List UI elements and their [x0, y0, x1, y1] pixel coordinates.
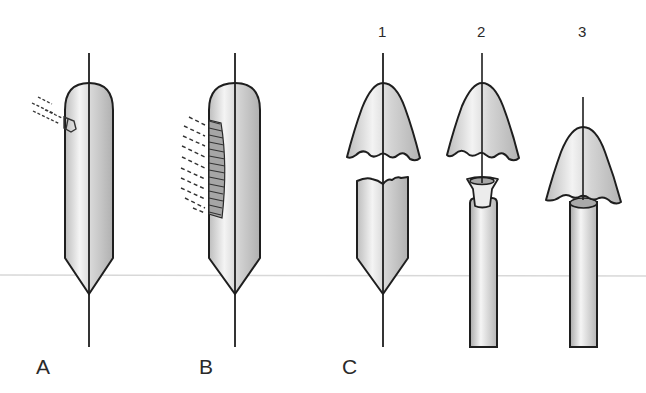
diagram-canvas: A B C 1 2 3 [0, 0, 646, 393]
panel-b [181, 53, 260, 347]
panel-label-c: C [342, 355, 357, 378]
panel-label-b: B [199, 355, 213, 378]
panel-c-step-2 [447, 53, 519, 347]
step-label-2: 2 [477, 23, 485, 40]
step-label-3: 3 [578, 23, 586, 40]
step-label-1: 1 [378, 23, 386, 40]
panel-label-a: A [36, 355, 50, 378]
contact-region [209, 120, 225, 218]
panel-c-step-3 [546, 97, 621, 347]
tube [470, 198, 497, 347]
cap [447, 83, 519, 160]
panel-c-step-1 [347, 53, 420, 347]
tube [570, 202, 597, 347]
force-lines-icon [181, 117, 205, 213]
panel-a [32, 53, 113, 347]
